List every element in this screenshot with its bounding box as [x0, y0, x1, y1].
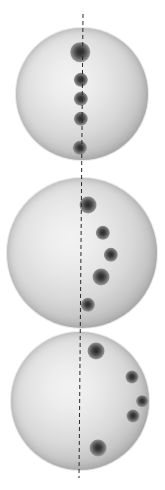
disc-top — [16, 28, 148, 160]
sunspot-figure — [0, 0, 165, 490]
disc-bottom — [11, 332, 149, 470]
disc-middle — [7, 178, 157, 328]
